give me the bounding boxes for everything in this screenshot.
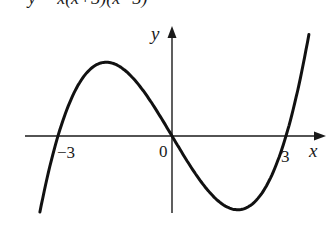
cubic-graph: y = x(x+3)(x−3) y x 0 −3 3 [0,0,334,226]
x-axis-label: x [308,140,318,161]
y-axis-arrow-icon [168,26,177,38]
tick-label-3: 3 [281,147,290,166]
y-axis-label: y [149,23,160,44]
tick-label-neg3: −3 [57,143,75,162]
cubic-curve [40,34,309,212]
origin-label: 0 [159,142,168,161]
chart-title: y = x(x+3)(x−3) [26,0,147,9]
